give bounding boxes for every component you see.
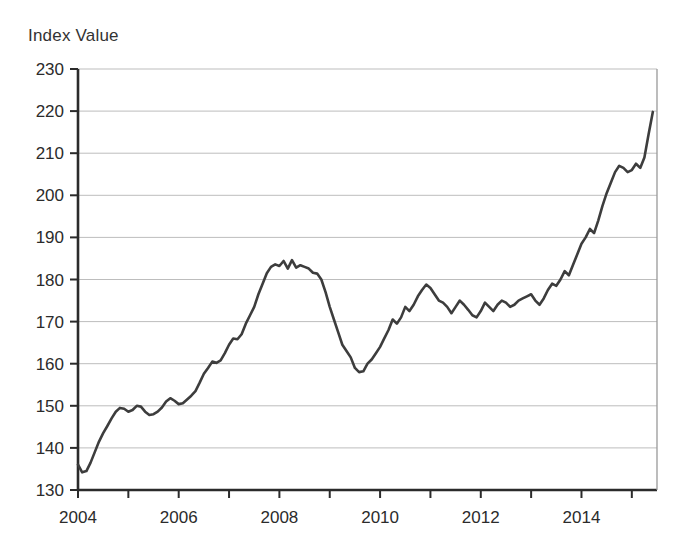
- x-tick-label-2012: 2012: [462, 508, 500, 527]
- series-line-index-value: [78, 112, 653, 472]
- x-tick-label-2008: 2008: [260, 508, 298, 527]
- index-value-line-chart: Index Value 1301401501601701801902002102…: [0, 0, 682, 559]
- y-tick-label-220: 220: [36, 102, 64, 121]
- y-tick-label-150: 150: [36, 397, 64, 416]
- y-tick-label-200: 200: [36, 186, 64, 205]
- y-axis-tick-labels: 130140150160170180190200210220230: [36, 60, 64, 500]
- x-tick-label-2006: 2006: [160, 508, 198, 527]
- chart-plot-area: 130140150160170180190200210220230 200420…: [0, 0, 682, 559]
- y-tick-label-170: 170: [36, 313, 64, 332]
- x-tick-label-2010: 2010: [361, 508, 399, 527]
- y-tick-label-230: 230: [36, 60, 64, 79]
- x-tick-label-2014: 2014: [563, 508, 601, 527]
- y-tick-label-190: 190: [36, 228, 64, 247]
- y-tick-label-140: 140: [36, 439, 64, 458]
- y-tick-label-210: 210: [36, 144, 64, 163]
- y-tick-label-180: 180: [36, 271, 64, 290]
- y-tick-label-130: 130: [36, 481, 64, 500]
- gridlines: [78, 69, 657, 448]
- x-tick-label-2004: 2004: [59, 508, 97, 527]
- x-axis-tick-labels: 200420062008201020122014: [59, 508, 600, 527]
- y-tick-label-160: 160: [36, 355, 64, 374]
